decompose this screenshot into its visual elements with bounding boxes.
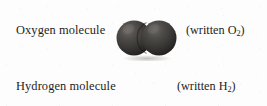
hydrogen-molecule-row: Hydrogen molecule — [0, 72, 267, 100]
oxygen-drop-shadow — [122, 55, 172, 61]
oxygen-molecule-label: Oxygen molecule — [16, 24, 105, 36]
oxygen-formula-suffix: ) — [241, 23, 245, 37]
oxygen-molecule-icon — [116, 15, 178, 61]
oxygen-atom-2 — [142, 21, 177, 56]
hydrogen-formula-note: (written H2) — [177, 80, 236, 95]
hydrogen-formula-suffix: ) — [232, 79, 236, 93]
oxygen-formula-prefix: (written O — [186, 23, 236, 37]
hydrogen-molecule-label: Hydrogen molecule — [16, 80, 116, 92]
hydrogen-formula-prefix: (written H — [177, 79, 227, 93]
oxygen-molecule-row: Oxygen molecule — [0, 11, 267, 49]
oxygen-formula-note: (written O2) — [186, 24, 245, 39]
